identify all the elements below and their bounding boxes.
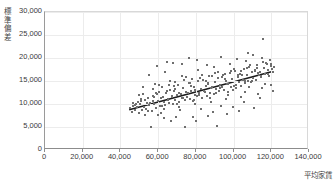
data-point — [238, 110, 240, 112]
data-point — [267, 73, 269, 75]
data-point — [147, 110, 149, 112]
data-point — [251, 71, 253, 73]
data-point — [181, 63, 183, 65]
data-point — [173, 85, 175, 87]
data-point — [176, 103, 178, 105]
data-point — [217, 71, 219, 73]
data-point — [138, 112, 140, 114]
data-point — [182, 97, 184, 99]
data-point — [170, 120, 172, 122]
data-point — [227, 91, 229, 93]
data-point — [220, 105, 222, 107]
data-point — [270, 63, 272, 65]
data-point — [257, 93, 259, 95]
data-point — [167, 99, 169, 101]
data-point — [199, 77, 201, 79]
data-point — [153, 96, 155, 98]
data-point — [216, 125, 218, 127]
x-axis-tick-labels: 020,00040,00060,00080,000100,000120,0001… — [44, 152, 308, 164]
data-point — [171, 95, 173, 97]
data-point — [154, 83, 156, 85]
data-point — [210, 101, 212, 103]
scatter-chart: 標 準 偏 差 05,00010,00015,00020,00025,00030… — [0, 0, 334, 181]
data-point — [215, 92, 217, 94]
data-point — [261, 57, 263, 59]
data-point — [235, 84, 237, 86]
data-point — [246, 67, 248, 69]
data-point — [129, 107, 131, 109]
data-point — [169, 80, 171, 82]
data-point — [168, 84, 170, 86]
data-point — [225, 80, 227, 82]
x-axis-tick-label: 40,000 — [108, 152, 131, 161]
data-point — [172, 103, 174, 105]
data-point — [217, 77, 219, 79]
data-point — [270, 84, 272, 86]
data-point — [190, 90, 192, 92]
data-point — [243, 68, 245, 70]
data-point — [200, 108, 202, 110]
data-point — [184, 126, 186, 128]
data-point — [221, 76, 223, 78]
data-point — [245, 60, 247, 62]
data-point — [214, 72, 216, 74]
gridline-horizontal — [45, 35, 307, 36]
data-point — [178, 92, 180, 94]
data-point — [272, 90, 274, 92]
data-point — [139, 103, 141, 105]
data-point — [153, 103, 155, 105]
data-point — [191, 78, 193, 80]
y-axis-tick-label: 10,000 — [2, 98, 42, 107]
data-point — [149, 102, 151, 104]
data-point — [237, 74, 239, 76]
data-point — [244, 80, 246, 82]
data-point — [148, 74, 150, 76]
data-point — [162, 96, 164, 98]
data-point — [219, 87, 221, 89]
x-axis-tick-label: 140,000 — [294, 152, 321, 161]
data-point — [158, 84, 160, 86]
data-point — [231, 78, 233, 80]
data-point — [132, 102, 134, 104]
data-point — [249, 64, 251, 66]
data-point — [211, 86, 213, 88]
data-point — [202, 79, 204, 81]
data-point — [268, 75, 270, 77]
data-point — [183, 79, 185, 81]
x-axis-tick-label: 120,000 — [257, 152, 284, 161]
data-point — [212, 111, 214, 113]
data-point — [164, 71, 166, 73]
data-point — [185, 76, 187, 78]
data-point — [134, 104, 136, 106]
data-point — [179, 109, 181, 111]
gridline-vertical — [271, 12, 272, 148]
data-point — [180, 93, 182, 95]
data-point — [169, 89, 171, 91]
data-point — [187, 92, 189, 94]
data-point — [151, 110, 153, 112]
x-axis-tick-label: 0 — [42, 152, 46, 161]
data-point — [152, 100, 154, 102]
data-point — [158, 91, 160, 93]
data-point — [273, 66, 275, 68]
data-point — [260, 75, 262, 77]
data-point — [156, 65, 158, 67]
data-point — [237, 76, 239, 78]
data-point — [221, 86, 223, 88]
data-point — [209, 97, 211, 99]
data-point — [157, 100, 159, 102]
data-point — [257, 72, 259, 74]
data-point — [269, 59, 271, 61]
data-point — [261, 87, 263, 89]
y-axis-tick-label: 15,000 — [2, 75, 42, 84]
data-point — [166, 61, 168, 63]
data-point — [259, 71, 261, 73]
data-point — [163, 108, 165, 110]
data-point — [193, 99, 195, 101]
data-point — [157, 114, 159, 116]
data-point — [141, 109, 143, 111]
data-point — [136, 106, 138, 108]
data-point — [142, 93, 144, 95]
data-point — [248, 86, 250, 88]
data-point — [234, 70, 236, 72]
